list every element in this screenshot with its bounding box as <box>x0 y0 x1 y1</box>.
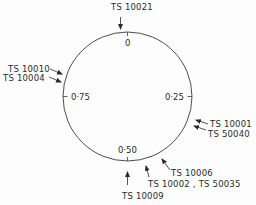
tick-label-050: 0·50 <box>118 145 137 155</box>
arrow-icon <box>162 159 170 170</box>
arrow-icon <box>146 166 149 177</box>
arrow-icon <box>196 120 208 124</box>
phase-diagram: 0 0·25 0·50 0·75 TS 10021 TS 10010 TS 10… <box>0 0 256 205</box>
marker-label-ts10004: TS 10004 <box>2 73 45 83</box>
marker-label-ts10021: TS 10021 <box>110 2 153 12</box>
arrow-icon <box>49 77 61 82</box>
marker-label-ts10001: TS 10001 <box>209 119 252 129</box>
marker-label-ts50040: TS 50040 <box>207 129 250 139</box>
marker-label-ts10002-ts50035: TS 10002 , TS 50035 <box>147 179 241 189</box>
arrow-icon <box>50 69 62 74</box>
arrow-icon <box>194 126 206 130</box>
phase-diagram-canvas: 0 0·25 0·50 0·75 TS 10021 TS 10010 TS 10… <box>0 0 256 205</box>
marker-label-ts10006: TS 10006 <box>170 168 213 178</box>
tick-label-0: 0 <box>125 38 130 48</box>
tick-label-025: 0·25 <box>165 92 184 102</box>
marker-label-ts10009: TS 10009 <box>121 191 164 201</box>
tick-label-075: 0·75 <box>71 92 90 102</box>
